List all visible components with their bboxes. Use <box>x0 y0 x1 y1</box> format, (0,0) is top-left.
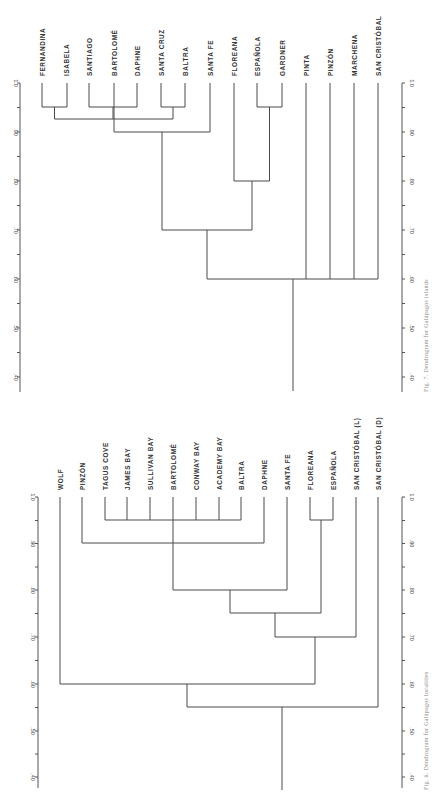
tree-branches-islands <box>42 83 378 391</box>
tick-label: .50 <box>30 727 36 735</box>
left-axis-islands: 1.0 .90 .80 .70 .60 .50 .40 <box>13 79 20 392</box>
tick-label: .80 <box>409 177 415 185</box>
tick-label: .60 <box>13 275 19 283</box>
right-axis-localities: 1.0 .90 .80 .70 .60 .50 .40 <box>402 493 415 788</box>
tick-label: 1.0 <box>409 79 415 87</box>
leaf-label: FLOREANA <box>231 36 238 76</box>
leaf-label: BARTOLOMÉ <box>169 443 177 490</box>
tick-label: .80 <box>409 586 415 594</box>
tick-label: .70 <box>409 226 415 234</box>
leaf-label: ESPAÑOLA <box>253 36 261 76</box>
leaf-label: PINTA <box>303 54 310 76</box>
tick-label: .60 <box>30 680 36 688</box>
tick-label: .40 <box>30 773 36 781</box>
leaf-label: PINZÓN <box>326 48 334 76</box>
leaf-labels-localities: WOLF PINZÓN TAGUS COVE JAMES BAY SULLIVA… <box>57 417 383 490</box>
tick-label: .50 <box>409 727 415 735</box>
tick-label: .40 <box>409 773 415 781</box>
leaf-label: SAN CRISTÓBAL <box>374 16 382 76</box>
leaf-label: SAN CRISTÓBAL (L) <box>352 417 361 490</box>
tick-label: .90 <box>13 128 19 136</box>
tick-label: .70 <box>13 226 19 234</box>
leaf-label: DAPHNE <box>261 459 268 490</box>
leaf-label: FERNANDINA <box>39 28 46 76</box>
leaf-label: JAMES BAY <box>124 448 131 490</box>
leaf-label: WOLF <box>57 469 64 490</box>
tick-label: 1.0 <box>13 79 19 87</box>
leaf-label: SANTA CRUZ <box>158 29 165 76</box>
tick-label: .50 <box>409 324 415 332</box>
leaf-label: BARTOLOMÉ <box>110 29 118 76</box>
figure-caption: Fig. 6. Dendrogram for Galápagos localit… <box>423 671 429 790</box>
leaf-label: PINZÓN <box>78 462 86 490</box>
tick-label: .60 <box>409 680 415 688</box>
leaf-label: DAPHNE <box>134 45 141 76</box>
tick-label: .80 <box>13 177 19 185</box>
tick-label: .90 <box>409 128 415 136</box>
leaf-label: ACADEMY BAY <box>216 436 223 490</box>
leaf-label: SULLIVAN BAY <box>147 437 154 490</box>
dendrogram-localities: 1.0 .90 .80 .70 .60 .50 .40 1.0 .90 <box>30 417 429 790</box>
tick-label: 1.0 <box>409 493 415 501</box>
leaf-label: SANTA FE <box>207 40 214 76</box>
leaf-label: BALTRA <box>182 47 189 76</box>
tick-label: .40 <box>13 373 19 381</box>
leaf-label: CONWAY BAY <box>193 441 200 490</box>
leaf-label: GARDNER <box>279 39 286 76</box>
tick-label: .70 <box>409 633 415 641</box>
right-axis-islands: 1.0 .90 .80 .70 .60 .50 .40 <box>402 79 415 392</box>
dendrogram-islands: 1.0 .90 .80 .70 .60 .50 .40 1.0 .90 <box>13 16 429 392</box>
leaf-label: MARCHENA <box>351 34 358 76</box>
leaf-label: SANTA FE <box>284 454 291 490</box>
figure-canvas: 1.0 .90 .80 .70 .60 .50 .40 1.0 .90 <box>0 0 439 807</box>
leaf-labels-islands: FERNANDINA ISABELA SANTIAGO BARTOLOMÉ DA… <box>39 16 382 76</box>
leaf-label: SANTIAGO <box>86 37 93 76</box>
left-axis-localities: 1.0 .90 .80 .70 .60 .50 .40 <box>30 493 38 788</box>
leaf-label: SAN CRISTÓBAL (D) <box>374 417 383 490</box>
tick-label: .70 <box>30 633 36 641</box>
tick-label: .40 <box>409 373 415 381</box>
leaf-label: FLOREANA <box>307 450 314 490</box>
tree-branches-localities <box>60 497 378 790</box>
tick-label: .60 <box>409 275 415 283</box>
tick-label: .50 <box>13 324 19 332</box>
leaf-label: BALTRA <box>238 461 245 490</box>
tick-label: .90 <box>409 540 415 548</box>
tick-label: .90 <box>30 540 36 548</box>
tick-label: .80 <box>30 586 36 594</box>
tick-label: 1.0 <box>30 493 36 501</box>
leaf-label: ESPAÑOLA <box>329 450 337 490</box>
leaf-label: TAGUS COVE <box>102 442 109 490</box>
figure-caption: Fig. 7. Dendrogram for Galápagos islands <box>423 279 429 392</box>
leaf-label: ISABELA <box>63 44 70 76</box>
